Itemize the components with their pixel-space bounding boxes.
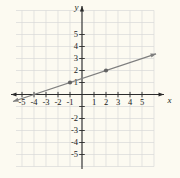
graph-svg: -5-4-3-2-11234554321-2-3-4-5xy	[0, 0, 180, 178]
y-axis-label: y	[74, 2, 79, 12]
x-axis-label: x	[167, 95, 172, 105]
y-tick-label: -5	[71, 149, 78, 159]
x-tick-label: 2	[104, 97, 108, 107]
x-tick-label: 3	[116, 97, 120, 107]
graph-background	[0, 0, 180, 178]
y-tick-label: 4	[74, 41, 79, 51]
data-point	[68, 80, 72, 84]
y-tick-label: -3	[71, 125, 78, 135]
x-tick-label: 5	[140, 97, 144, 107]
coordinate-plane-graph: -5-4-3-2-11234554321-2-3-4-5xy	[0, 0, 180, 178]
y-tick-label: 2	[74, 65, 78, 75]
y-tick-label: 5	[74, 29, 78, 39]
x-tick-label: -2	[54, 97, 61, 107]
data-point	[104, 68, 108, 72]
x-tick-label: 1	[92, 97, 96, 107]
y-tick-label: 3	[74, 53, 78, 63]
x-tick-label: -1	[66, 97, 73, 107]
x-tick-label: -3	[42, 97, 49, 107]
x-tick-label: -4	[30, 97, 38, 107]
y-tick-label: 1	[74, 77, 78, 87]
y-tick-label: -4	[71, 137, 79, 147]
y-tick-label: -2	[71, 113, 78, 123]
